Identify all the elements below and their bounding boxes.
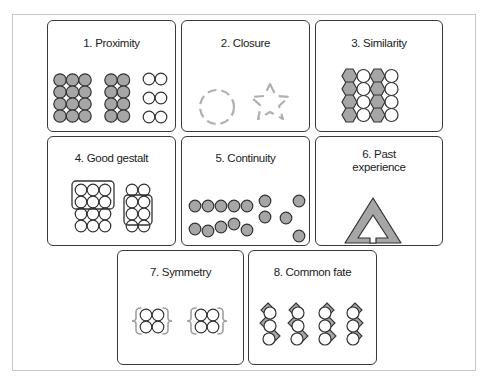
panel-similarity: 3. Similarity [315,20,443,132]
panel-continuity: 5. Continuity [181,136,310,246]
past-experience-illustration [316,137,444,247]
panel-past-experience: 6. Past experience [315,136,443,246]
similarity-illustration [316,21,444,133]
panel-common-fate: 8. Common fate [248,250,377,365]
continuity-illustration [182,137,311,247]
panel-good-gestalt: 4. Good gestalt [47,136,176,246]
panel-closure: 2. Closure [181,20,310,132]
good-gestalt-illustration [48,137,177,247]
panel-proximity: 1. Proximity [47,20,176,132]
common-fate-illustration [249,251,378,366]
proximity-illustration [48,21,177,133]
closure-illustration [182,21,311,133]
symmetry-illustration [118,251,245,366]
panel-symmetry: 7. Symmetry [117,250,244,365]
